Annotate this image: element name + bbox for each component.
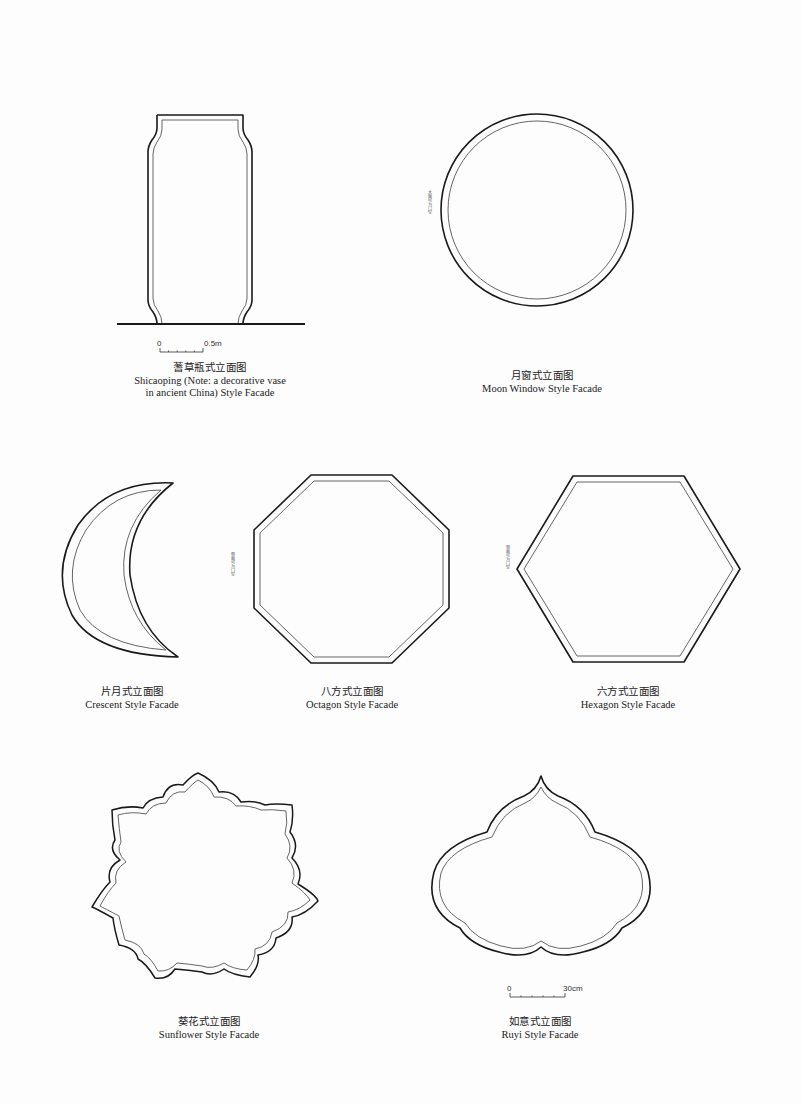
caption-zh: 如意式立面图 bbox=[480, 1016, 600, 1029]
caption-crescent: 片月式立面图 Crescent Style Facade bbox=[62, 686, 202, 711]
hexagon-side-note: 侧面可为门空 bbox=[505, 545, 510, 569]
caption-en: Ruyi Style Facade bbox=[480, 1029, 600, 1042]
caption-ruyi: 如意式立面图 Ruyi Style Facade bbox=[480, 1016, 600, 1041]
caption-hexagon: 六方式立面图 Hexagon Style Facade bbox=[558, 686, 698, 711]
scale-bar-0.5m bbox=[160, 348, 203, 352]
facade-drawings bbox=[0, 0, 802, 1105]
caption-en: Sunflower Style Facade bbox=[134, 1029, 284, 1042]
scale-start-label: 0 bbox=[157, 339, 161, 348]
moon-window-side-note: 大面可为门空 bbox=[427, 190, 432, 214]
sunflower-shape bbox=[92, 773, 318, 978]
caption-moon-window: 月窗式立面图 Moon Window Style Facade bbox=[460, 370, 624, 395]
octagon-shape bbox=[254, 475, 449, 663]
moon-window-shape bbox=[441, 114, 633, 306]
octagon-side-note: 侧面可为门空 bbox=[230, 552, 235, 576]
drawing-sheet: 0 0.5m 0 30cm 大面可为门空 侧面可为门空 侧面可为门空 蓍草瓶式立… bbox=[0, 0, 802, 1105]
scale-end-label: 0.5m bbox=[204, 339, 222, 348]
caption-en: Shicaoping (Note: a decorative vase bbox=[110, 375, 310, 388]
caption-en: Hexagon Style Facade bbox=[558, 699, 698, 712]
caption-zh: 葵花式立面图 bbox=[134, 1016, 284, 1029]
caption-shicaoping: 蓍草瓶式立面图 Shicaoping (Note: a decorative v… bbox=[110, 362, 310, 400]
caption-zh: 月窗式立面图 bbox=[460, 370, 624, 383]
scale-start-label: 0 bbox=[507, 984, 511, 993]
caption-en: Octagon Style Facade bbox=[282, 699, 422, 712]
hexagon-shape bbox=[517, 476, 740, 662]
caption-en: in ancient China) Style Facade bbox=[110, 387, 310, 400]
caption-sunflower: 葵花式立面图 Sunflower Style Facade bbox=[134, 1016, 284, 1041]
caption-en: Moon Window Style Facade bbox=[460, 383, 624, 396]
crescent-shape bbox=[62, 483, 178, 657]
caption-en: Crescent Style Facade bbox=[62, 699, 202, 712]
shicaoping-vase-shape bbox=[117, 115, 305, 324]
ruyi-shape bbox=[432, 776, 650, 955]
caption-zh: 八方式立面图 bbox=[282, 686, 422, 699]
scale-bar-30cm bbox=[510, 993, 565, 997]
scale-end-label: 30cm bbox=[563, 984, 583, 993]
caption-zh: 蓍草瓶式立面图 bbox=[110, 362, 310, 375]
caption-zh: 六方式立面图 bbox=[558, 686, 698, 699]
caption-zh: 片月式立面图 bbox=[62, 686, 202, 699]
caption-octagon: 八方式立面图 Octagon Style Facade bbox=[282, 686, 422, 711]
